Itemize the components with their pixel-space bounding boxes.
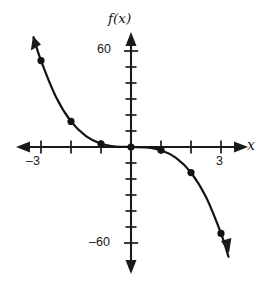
x-tick-label-3: 3 — [216, 155, 223, 168]
data-point-marker — [37, 57, 44, 64]
y-axis-down-arrow-icon — [126, 260, 137, 274]
y-axis-up-arrow-icon — [126, 32, 137, 46]
data-point-marker — [187, 169, 194, 176]
x-tick-label-neg-3: –3 — [26, 155, 40, 168]
data-point-marker — [97, 140, 104, 147]
x-axis-right-arrow-icon — [234, 142, 248, 153]
y-tick-label-60: 60 — [97, 43, 111, 56]
data-point-marker — [157, 147, 164, 154]
graph-canvas — [0, 0, 269, 284]
y-axis-label: f(x) — [108, 12, 131, 26]
data-point-marker — [127, 143, 134, 150]
data-point-marker — [217, 230, 224, 237]
x-axis-label: x — [247, 138, 255, 152]
y-axis-group — [124, 32, 138, 274]
cubic-function-graph-figure: f(x) x 60 –60 –3 3 — [0, 0, 269, 284]
data-point-marker — [67, 118, 74, 125]
x-axis-left-arrow-icon — [16, 142, 30, 153]
y-tick-label-neg-60: –60 — [89, 236, 110, 249]
